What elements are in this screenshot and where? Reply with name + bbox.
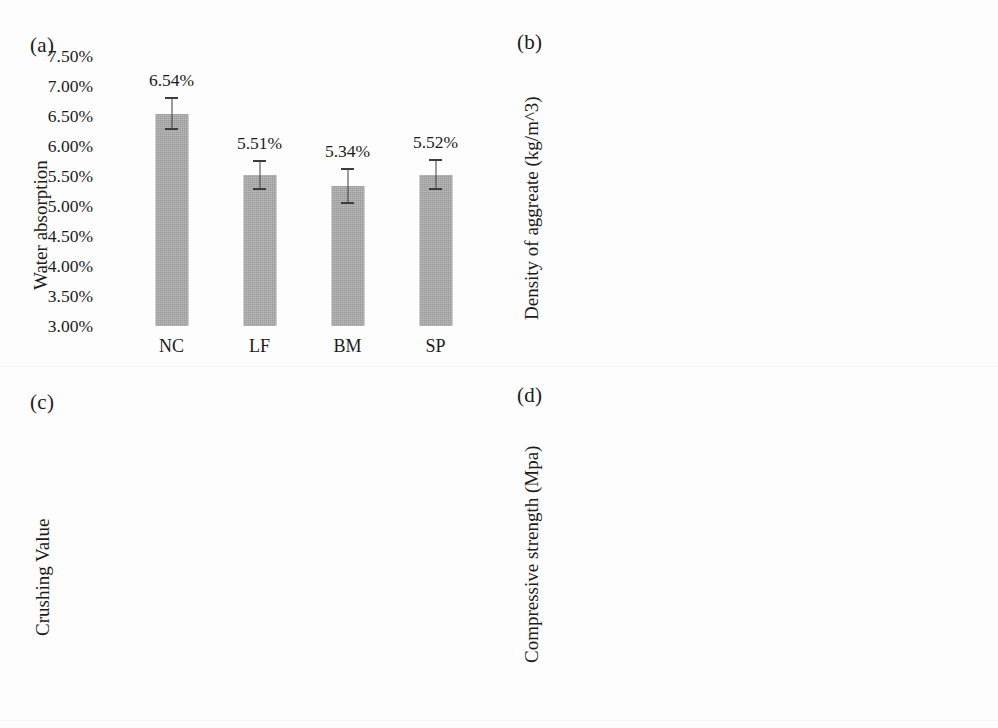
error-bar-sp bbox=[435, 159, 436, 190]
figure-canvas: (a) Water absorption 7.50%7.00%6.50%6.00… bbox=[0, 0, 998, 728]
bar-nc[interactable] bbox=[155, 114, 188, 326]
bar-value-label: 6.54% bbox=[149, 70, 194, 91]
x-axis-label-sp: SP bbox=[425, 336, 445, 357]
error-bar-nc bbox=[171, 97, 172, 131]
bar-group: 5.52%SP bbox=[419, 56, 452, 326]
error-bar-lf bbox=[259, 160, 260, 190]
bar-sp[interactable] bbox=[419, 175, 452, 326]
y-axis-tick-label: 6.00% bbox=[48, 136, 100, 157]
bar-group: 5.34%BM bbox=[331, 56, 364, 326]
y-axis-tick-label: 4.50% bbox=[48, 226, 100, 247]
panel-d-compressive-strength: (d) Compressive strength (Mpa) 46.044.04… bbox=[499, 368, 998, 728]
x-axis-label-lf: LF bbox=[249, 336, 270, 357]
panel-d-tag: (d) bbox=[517, 383, 542, 408]
x-axis-label-bm: BM bbox=[333, 336, 361, 357]
panel-a-plot-area: 7.50%7.00%6.50%6.00%5.50%5.00%4.50%4.00%… bbox=[100, 56, 490, 326]
bar-bm[interactable] bbox=[331, 186, 364, 326]
panel-b-y-axis-title: Density of aggreate (kg/m^3) bbox=[521, 96, 543, 320]
bar-value-label: 5.51% bbox=[237, 133, 282, 154]
bar-value-label: 5.34% bbox=[325, 141, 370, 162]
bar-group: 5.51%LF bbox=[243, 56, 276, 326]
panel-b-density-of-aggregate: (b) Density of aggreate (kg/m^3) 2680266… bbox=[499, 0, 998, 368]
y-axis-tick-label: 5.00% bbox=[48, 196, 100, 217]
y-axis-tick-label: 4.00% bbox=[48, 256, 100, 277]
bar-group: 6.54%NC bbox=[155, 56, 188, 326]
panel-c-crushing-value: (c) Crushing Value 30.0%25.0%20.0%15.0%1… bbox=[0, 368, 499, 728]
panel-c-y-axis-title: Crushing Value bbox=[32, 519, 54, 636]
y-axis-tick-label: 3.50% bbox=[48, 286, 100, 307]
scan-artifact bbox=[0, 366, 998, 367]
panel-d-y-axis-title: Compressive strength (Mpa) bbox=[521, 446, 543, 663]
bar-lf[interactable] bbox=[243, 175, 276, 326]
error-bar-bm bbox=[347, 168, 348, 204]
y-axis-tick-label: 3.00% bbox=[48, 316, 100, 337]
y-axis-tick-label: 7.00% bbox=[48, 76, 100, 97]
panel-a-water-absorption: (a) Water absorption 7.50%7.00%6.50%6.00… bbox=[0, 0, 499, 368]
y-axis-tick-label: 7.50% bbox=[48, 46, 100, 67]
panel-b-tag: (b) bbox=[517, 30, 542, 55]
x-axis-label-nc: NC bbox=[159, 336, 184, 357]
panel-c-tag: (c) bbox=[30, 390, 54, 415]
y-axis-tick-label: 6.50% bbox=[48, 106, 100, 127]
y-axis-tick-label: 5.50% bbox=[48, 166, 100, 187]
bar-value-label: 5.52% bbox=[413, 132, 458, 153]
scan-artifact bbox=[0, 720, 998, 721]
